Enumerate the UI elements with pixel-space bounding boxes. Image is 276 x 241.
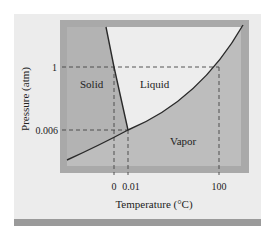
- region-label-solid: Solid: [80, 78, 104, 90]
- bottom-strip: [14, 219, 261, 226]
- y-axis-label: Pressure (atm): [19, 67, 32, 131]
- region-label-liquid: Liquid: [140, 78, 170, 90]
- y-tick-1: 1: [52, 62, 57, 73]
- x-axis-label: Temperature (°C): [115, 198, 193, 211]
- phase-diagram: Solid Liquid Vapor 1 0.006 0 0.01 100 Te…: [0, 0, 276, 241]
- region-label-vapor: Vapor: [170, 135, 197, 147]
- y-tick-0006: 0.006: [36, 125, 59, 136]
- x-tick-0: 0: [112, 181, 117, 192]
- x-tick-100: 100: [212, 181, 227, 192]
- x-tick-001: 0.01: [122, 181, 140, 192]
